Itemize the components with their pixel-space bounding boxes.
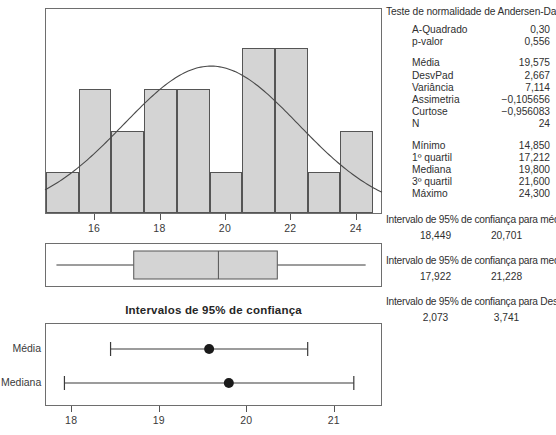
- stat-label: Mínimo: [412, 140, 445, 152]
- stat-label: Variância: [412, 82, 454, 94]
- statistic-row: Curtose−0,956083: [386, 106, 556, 118]
- axis-tick: [356, 214, 357, 220]
- axis-tick-label: 22: [270, 222, 310, 234]
- statistic-row: Mínimo14,850: [386, 140, 556, 152]
- axis-tick-label: 16: [74, 222, 114, 234]
- ci-mean-values: 18,449 20,701: [386, 225, 556, 242]
- ci-mean-low: 18,449: [420, 230, 451, 242]
- ci-stdev-values: 2,073 3,741: [386, 307, 556, 324]
- ci-mean-heading: Intervalo de 95% de confiança para média: [386, 214, 556, 225]
- ci-row-label: Mediana: [1, 376, 41, 388]
- statistic-row: Média19,575: [386, 57, 556, 69]
- ci-median-low: 17,922: [420, 271, 451, 283]
- stat-value: 19,575: [519, 57, 550, 69]
- ci-axis-tick: [159, 406, 160, 412]
- ci-axis-tick-label: 21: [314, 414, 354, 426]
- axis-tick-label: 24: [336, 222, 376, 234]
- stat-value: 14,850: [519, 140, 550, 152]
- axis-tick: [94, 214, 95, 220]
- ci-point-marker: [204, 344, 214, 354]
- stat-value: 2,667: [525, 70, 551, 82]
- stat-label: DesvPad: [412, 70, 453, 82]
- stat-label: Assimetria: [412, 94, 460, 106]
- statistics-column: Teste de normalidade de Andersen-Darling…: [386, 6, 556, 431]
- ci-interval-row: [111, 342, 308, 356]
- stat-value: 21,600: [519, 176, 550, 188]
- normal-curve: [45, 8, 382, 214]
- ci-intervals: [45, 323, 382, 406]
- statistic-row: 3º quartil21,600: [386, 176, 556, 188]
- stat-value: 7,114: [525, 82, 550, 94]
- axis-tick: [290, 214, 291, 220]
- statistic-row: p-valor0,556: [386, 36, 556, 48]
- ci-stdev-high: 3,741: [494, 312, 520, 324]
- ci-chart-title: Intervalos de 95% de confiança: [45, 304, 382, 316]
- ci-stdev-heading: Intervalo de 95% de confiança para DesvP…: [386, 296, 556, 307]
- ci-median-high: 21,228: [491, 271, 522, 283]
- stat-label: Mediana: [412, 164, 451, 176]
- stat-label: 1º quartil: [412, 152, 452, 164]
- statistic-row: A-Quadrado0,30: [386, 24, 556, 36]
- stat-label: A-Quadrado: [412, 24, 468, 36]
- stat-label: N: [412, 118, 419, 130]
- stat-label: Máximo: [412, 188, 448, 200]
- ci-axis-tick-label: 18: [51, 414, 91, 426]
- stat-value: 19,800: [519, 164, 550, 176]
- axis-tick: [160, 214, 161, 220]
- stat-value: 0,556: [525, 36, 551, 48]
- axis-tick: [225, 214, 226, 220]
- quartile-statistics: Mínimo14,8501º quartil17,212Mediana19,80…: [386, 140, 556, 201]
- ci-axis-tick: [71, 406, 72, 412]
- normality-test-values: A-Quadrado0,30p-valor0,556: [386, 24, 556, 48]
- descriptive-statistics: Média19,575DesvPad2,667Variância7,114Ass…: [386, 57, 556, 130]
- axis-tick-label: 18: [140, 222, 180, 234]
- statistic-row: 1º quartil17,212: [386, 152, 556, 164]
- statistic-row: Assimetria−0,105656: [386, 94, 556, 106]
- ci-row-labels: MédiaMediana: [0, 323, 41, 406]
- ci-stdev-low: 2,073: [423, 312, 449, 324]
- ci-axis-tick-label: 19: [139, 414, 179, 426]
- statistic-row: Máximo24,300: [386, 188, 556, 200]
- ci-point-marker: [224, 378, 234, 388]
- ci-axis-tick: [246, 406, 247, 412]
- ci-row-label: Média: [1, 342, 41, 354]
- statistic-row: Mediana19,800: [386, 164, 556, 176]
- ci-median-heading: Intervalo de 95% de confiança para media…: [386, 255, 556, 266]
- stat-label: 3º quartil: [412, 176, 452, 188]
- stat-label: p-valor: [412, 36, 443, 48]
- statistics-summary-report: 1618202224 Intervalos de 95% de confianç…: [0, 0, 556, 435]
- stat-value: −0,956083: [502, 106, 550, 118]
- boxplot-box: [134, 251, 278, 279]
- statistic-row: DesvPad2,667: [386, 70, 556, 82]
- statistic-row: N24: [386, 118, 556, 130]
- ci-mean-high: 20,701: [491, 230, 522, 242]
- stat-value: 24: [539, 118, 550, 130]
- stat-label: Média: [412, 57, 440, 69]
- stat-value: 24,300: [519, 188, 550, 200]
- anderson-darling-heading: Teste de normalidade de Andersen-Darling: [386, 6, 556, 17]
- stat-value: 0,30: [530, 24, 550, 36]
- stat-value: −0,105656: [502, 94, 550, 106]
- ci-interval-row: [64, 376, 353, 390]
- ci-axis-tick-label: 20: [226, 414, 266, 426]
- boxplot: [45, 243, 382, 287]
- stat-value: 17,212: [519, 152, 550, 164]
- statistic-row: Variância7,114: [386, 82, 556, 94]
- stat-label: Curtose: [412, 106, 448, 118]
- axis-tick-label: 20: [205, 222, 245, 234]
- ci-median-values: 17,922 21,228: [386, 266, 556, 283]
- ci-axis-tick: [334, 406, 335, 412]
